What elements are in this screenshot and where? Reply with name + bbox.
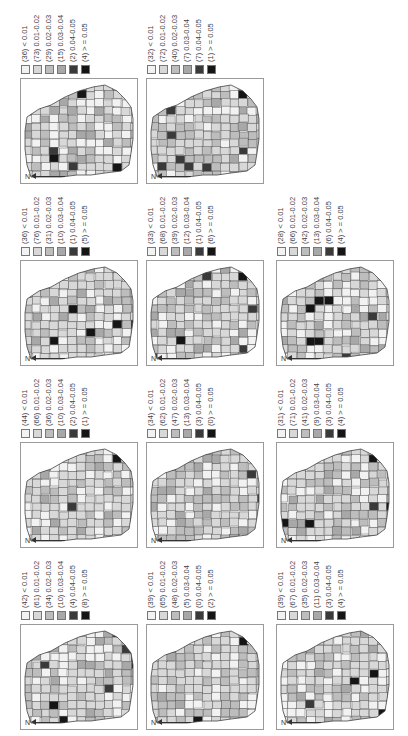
county-map-shape bbox=[21, 79, 137, 183]
legend-item: (1) > = 0.05 bbox=[206, 8, 218, 74]
legend-label: (10) 0.03-0.04 bbox=[56, 188, 66, 244]
north-arrow-icon bbox=[161, 176, 191, 177]
legend-item: (4) > = 0.05 bbox=[336, 554, 348, 620]
map-panel: (44) < 0.01(66) 0.01-0.02(36) 0.02-0.03(… bbox=[20, 372, 140, 550]
legend-item: (42) < 0.01 bbox=[20, 554, 32, 620]
legend-item: (3) 0.04-0.05 bbox=[324, 372, 336, 438]
legend-item: (36) < 0.01 bbox=[20, 8, 32, 74]
legend-item: (4) 0.04-0.05 bbox=[68, 554, 80, 620]
choropleth-map: N bbox=[20, 442, 138, 548]
legend-swatch bbox=[171, 611, 180, 620]
north-arrow-icon bbox=[35, 176, 65, 177]
legend-item: (1) 0.04-0.05 bbox=[68, 190, 80, 256]
legend-swatch bbox=[301, 247, 310, 256]
legend-swatch bbox=[159, 429, 168, 438]
legend-item: (5) 0.03-0.04 bbox=[182, 554, 194, 620]
legend-item: (12) 0.03-0.04 bbox=[182, 190, 194, 256]
legend-label: (39) 0.02-0.03 bbox=[170, 188, 180, 244]
legend-item: (41) 0.02-0.03 bbox=[300, 372, 312, 438]
north-label: N bbox=[25, 355, 30, 362]
legend-swatch bbox=[57, 429, 66, 438]
legend-label: (12) 0.03-0.04 bbox=[182, 188, 192, 244]
legend-item: (66) 0.01-0.02 bbox=[32, 372, 44, 438]
legend-swatch bbox=[81, 611, 90, 620]
legend-label: (0) 0.04-0.05 bbox=[194, 552, 204, 608]
north-label: N bbox=[25, 719, 30, 726]
north-arrow-icon bbox=[35, 540, 65, 541]
north-label: N bbox=[281, 537, 286, 544]
legend-label: (3) 0.04-0.05 bbox=[324, 370, 334, 426]
legend-label: (2) 0.04-0.05 bbox=[68, 370, 78, 426]
choropleth-map: N bbox=[276, 442, 394, 548]
legend-item: (28) < 0.01 bbox=[276, 190, 288, 256]
legend-swatch bbox=[57, 65, 66, 74]
legend-swatch bbox=[313, 429, 322, 438]
legend-swatch bbox=[171, 65, 180, 74]
legend-item: (4) > = 0.05 bbox=[336, 372, 348, 438]
legend-label: (10) 0.03-0.04 bbox=[56, 370, 66, 426]
legend-item: (34) 0.02-0.03 bbox=[44, 554, 56, 620]
north-arrow-icon bbox=[291, 358, 321, 359]
choropleth-map: N bbox=[20, 78, 138, 184]
north-label: N bbox=[151, 173, 156, 180]
legend-swatch bbox=[337, 429, 346, 438]
legend-label: (66) 0.01-0.02 bbox=[32, 370, 42, 426]
north-label: N bbox=[151, 355, 156, 362]
legend-item: (15) 0.03-0.04 bbox=[56, 8, 68, 74]
legend-swatch bbox=[45, 611, 54, 620]
legend-item: (7) 0.03-0.04 bbox=[182, 8, 194, 74]
choropleth-map: N bbox=[20, 260, 138, 366]
legend-item: (34) < 0.01 bbox=[146, 372, 158, 438]
legend-label: (44) < 0.01 bbox=[20, 370, 30, 426]
legend-label: (68) 0.01-0.02 bbox=[158, 188, 168, 244]
legend-item: (29) 0.02-0.03 bbox=[44, 8, 56, 74]
legend-item: (67) 0.01-0.02 bbox=[288, 554, 300, 620]
county-map-shape bbox=[147, 625, 263, 729]
legend-item: (10) 0.03-0.04 bbox=[56, 372, 68, 438]
legend-label: (0) > = 0.05 bbox=[206, 370, 216, 426]
legend-item: (13) 0.03-0.04 bbox=[312, 190, 324, 256]
legend-label: (47) 0.02-0.03 bbox=[170, 370, 180, 426]
legend-label: (42) < 0.01 bbox=[20, 552, 30, 608]
legend-label: (40) 0.02-0.03 bbox=[170, 6, 180, 62]
legend-label: (28) < 0.01 bbox=[276, 188, 286, 244]
legend-swatch bbox=[69, 65, 78, 74]
legend-item: (36) < 0.01 bbox=[20, 190, 32, 256]
county-map-shape bbox=[277, 625, 393, 729]
legend-swatch bbox=[207, 611, 216, 620]
map-legend: (39) < 0.01(67) 0.01-0.02(35) 0.02-0.03(… bbox=[276, 554, 396, 620]
legend-label: (73) 0.01-0.02 bbox=[32, 6, 42, 62]
north-label: N bbox=[25, 173, 30, 180]
legend-swatch bbox=[147, 611, 156, 620]
legend-label: (39) < 0.01 bbox=[276, 552, 286, 608]
legend-label: (15) 0.03-0.04 bbox=[56, 6, 66, 62]
legend-item: (6) 0.04-0.05 bbox=[324, 190, 336, 256]
legend-swatch bbox=[33, 429, 42, 438]
legend-item: (62) 0.01-0.02 bbox=[158, 372, 170, 438]
legend-swatch bbox=[171, 429, 180, 438]
map-legend: (33) < 0.01(68) 0.01-0.02(39) 0.02-0.03(… bbox=[146, 190, 266, 256]
choropleth-map: N bbox=[20, 624, 138, 730]
legend-label: (66) 0.01-0.02 bbox=[288, 188, 298, 244]
legend-swatch bbox=[33, 247, 42, 256]
legend-swatch bbox=[313, 247, 322, 256]
legend-swatch bbox=[21, 611, 30, 620]
legend-label: (3) 0.04-0.05 bbox=[324, 552, 334, 608]
legend-label: (2) > = 0.05 bbox=[206, 552, 216, 608]
map-panel: (33) < 0.01(68) 0.01-0.02(39) 0.02-0.03(… bbox=[146, 190, 266, 368]
legend-swatch bbox=[45, 429, 54, 438]
legend-swatch bbox=[21, 247, 30, 256]
legend-label: (61) 0.01-0.02 bbox=[32, 552, 42, 608]
legend-label: (11) 0.03-0.04 bbox=[312, 552, 322, 608]
legend-swatch bbox=[195, 611, 204, 620]
legend-item: (71) 0.01-0.02 bbox=[288, 372, 300, 438]
legend-swatch bbox=[195, 429, 204, 438]
north-arrow-icon bbox=[161, 722, 191, 723]
legend-swatch bbox=[301, 611, 310, 620]
county-map-shape bbox=[21, 261, 137, 365]
legend-label: (10) 0.03-0.04 bbox=[56, 552, 66, 608]
north-label: N bbox=[151, 719, 156, 726]
legend-swatch bbox=[289, 429, 298, 438]
legend-item: (2) 0.04-0.05 bbox=[68, 372, 80, 438]
county-map-shape bbox=[147, 443, 263, 547]
